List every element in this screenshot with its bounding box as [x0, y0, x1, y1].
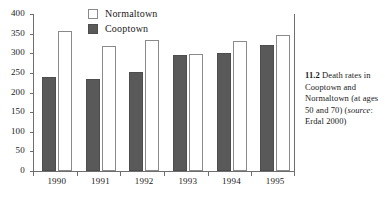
caption-source-label: source	[348, 105, 371, 115]
y-axis-tick-label: 150	[11, 106, 25, 116]
y-axis-tick-label: 50	[16, 145, 25, 155]
bar-group: 1990	[42, 14, 72, 171]
legend-swatch-normaltown-icon	[88, 9, 98, 19]
y-axis-tick-label: 100	[11, 126, 25, 136]
bar-chart-plot-area: 050100150200250300350400 199019911992199…	[33, 14, 295, 172]
y-axis-tick-label: 250	[11, 67, 25, 77]
bar-cooptown	[129, 72, 143, 171]
x-axis-tick-label: 1995	[260, 176, 290, 186]
x-axis-tick	[251, 172, 252, 176]
y-axis-tick-label: 300	[11, 47, 25, 57]
y-axis-tick: 400	[30, 14, 34, 15]
bar-normaltown	[189, 54, 203, 171]
x-axis-tick	[77, 172, 78, 176]
legend-label-cooptown: Cooptown	[105, 23, 148, 34]
x-axis-tick-label: 1990	[42, 176, 72, 186]
y-axis-tick: 50	[30, 151, 34, 152]
x-axis-tick-label: 1993	[173, 176, 203, 186]
legend-item-normaltown: Normaltown	[88, 8, 158, 19]
bar-normaltown	[102, 46, 116, 171]
y-axis-tick: 250	[30, 73, 34, 74]
x-axis-tick-label: 1991	[86, 176, 116, 186]
figure-11-2: 050100150200250300350400 199019911992199…	[0, 0, 385, 212]
bar-normaltown	[276, 35, 290, 171]
bar-cooptown	[86, 79, 100, 171]
x-axis-tick	[208, 172, 209, 176]
bar-cooptown	[260, 45, 274, 171]
x-axis-tick	[33, 172, 34, 176]
legend-label-normaltown: Normaltown	[105, 8, 158, 19]
y-axis-tick-label: 0	[20, 165, 25, 175]
legend-swatch-cooptown-icon	[88, 24, 98, 34]
caption-figure-number: 11.2	[305, 70, 320, 80]
x-axis-tick	[294, 172, 295, 176]
x-axis-tick-label: 1994	[217, 176, 247, 186]
bar-cooptown	[173, 55, 187, 171]
bar-group: 1994	[217, 14, 247, 171]
bar-normaltown	[233, 41, 247, 171]
bar-cooptown	[217, 53, 231, 171]
bar-group: 1993	[173, 14, 203, 171]
y-axis-tick: 100	[30, 132, 34, 133]
bar-group: 1995	[260, 14, 290, 171]
x-axis-tick	[164, 172, 165, 176]
x-axis-tick-label: 1992	[129, 176, 159, 186]
y-axis-tick: 350	[30, 34, 34, 35]
bar-normaltown	[145, 40, 159, 171]
y-axis-tick: 200	[30, 93, 34, 94]
bar-normaltown	[58, 31, 72, 171]
x-axis-tick	[120, 172, 121, 176]
bar-cooptown	[42, 77, 56, 171]
y-axis-tick-label: 400	[11, 8, 25, 18]
y-axis-tick: 150	[30, 112, 34, 113]
plot-right-border	[294, 14, 295, 172]
chart-legend: Normaltown Cooptown	[88, 8, 158, 38]
y-axis-tick-label: 350	[11, 28, 25, 38]
y-axis-tick: 300	[30, 53, 34, 54]
figure-caption: 11.2 Death rates in Cooptown and Normalt…	[305, 70, 383, 128]
y-axis-tick-label: 200	[11, 87, 25, 97]
legend-item-cooptown: Cooptown	[88, 23, 158, 34]
